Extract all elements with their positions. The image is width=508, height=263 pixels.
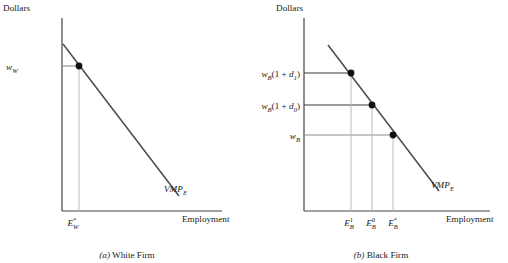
y-axis-title: Dollars [3, 3, 30, 13]
panel-black-firm: Dollars Employment VMPE wB(1 + d1) wB(1 … [254, 0, 508, 240]
wage-label-d1: wB(1 + d1) [261, 69, 300, 81]
point-estar-black [390, 132, 397, 139]
point-e0-black [369, 102, 376, 109]
employment-label-e1: E1B [343, 216, 354, 229]
equilibrium-point-white [76, 63, 83, 70]
wage-label-base-sub: B [296, 136, 300, 143]
vmp-label-white-sub: E [182, 189, 187, 196]
vmp-label-black: VMPE [431, 180, 454, 192]
wage-label-d1-paren-close: ) [297, 69, 300, 79]
x-axis-title: Employment [446, 214, 494, 224]
x-axis-title: Employment [182, 214, 230, 224]
wage-label-d0: wB(1 + d0) [261, 101, 300, 113]
employment-label-e0: E0B [365, 216, 376, 229]
vmp-label-white-base: VMP [164, 184, 183, 194]
employment-label-e1-sub: B [350, 223, 354, 230]
vmp-label-black-base: VMP [431, 180, 450, 190]
caption-white-letter: (a) [99, 250, 110, 260]
point-e1-black [348, 70, 355, 77]
wage-label-d0-paren-open: (1 + [272, 101, 289, 111]
employment-label-estar: E*B [387, 216, 398, 229]
employment-label-e0-sub: B [372, 223, 376, 230]
wage-label-d1-paren-open: (1 + [272, 69, 289, 79]
caption-black-text: Black Firm [367, 250, 409, 260]
caption-black-letter: (b) [354, 250, 365, 260]
caption-white-text: White Firm [112, 250, 155, 260]
wage-label-white: wW [6, 62, 18, 74]
employment-label-white-sub: W [73, 223, 79, 230]
wage-label-d0-paren-close: ) [297, 101, 300, 111]
panel-white-firm: Dollars Employment VMPE wW E*W [0, 0, 254, 240]
vmp-label-black-sub: E [449, 185, 454, 192]
vmp-curve-black [328, 45, 439, 191]
employment-label-estar-sub: B [394, 223, 398, 230]
y-axis-title: Dollars [276, 3, 303, 13]
wage-label-base: wB [290, 131, 300, 143]
figure-container: Dollars Employment VMPE wW E*W Dollars E… [0, 0, 508, 263]
caption-white-firm: (a) White Firm [0, 250, 254, 260]
wage-label-white-sub: W [12, 67, 18, 74]
vmp-label-white: VMPE [164, 184, 187, 196]
caption-black-firm: (b) Black Firm [254, 250, 508, 260]
employment-label-white: E*W [66, 216, 79, 229]
